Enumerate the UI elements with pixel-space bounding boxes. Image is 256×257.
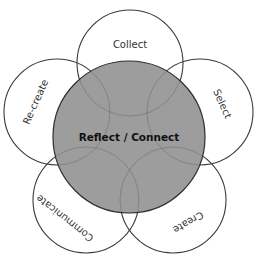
center-label: Reflect / Connect — [79, 131, 180, 143]
petal-label-collect: Collect — [113, 39, 147, 50]
venn-flower-diagram: CollectSelectCreateCommunicateRe-create … — [0, 0, 256, 257]
